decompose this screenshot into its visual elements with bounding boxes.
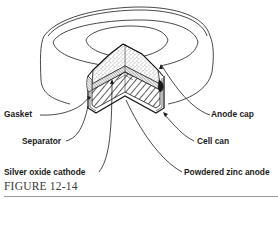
- anode-cap-boss: [86, 26, 168, 40]
- leader-zinc-anode: [126, 100, 182, 172]
- leader-cell-can: [164, 114, 194, 141]
- label-separator: Separator: [22, 137, 61, 145]
- cutaway-section: [87, 44, 164, 113]
- gasket-left: [87, 76, 92, 92]
- gasket-right: [158, 80, 163, 92]
- label-anode-cap: Anode cap: [211, 110, 254, 118]
- figure-caption: FIGURE 12-14: [4, 181, 78, 193]
- label-gasket: Gasket: [4, 110, 32, 118]
- caption-rule: [4, 196, 278, 197]
- right-wall: [168, 36, 213, 104]
- leader-gasket: [40, 98, 88, 115]
- leader-anode-cap: [162, 66, 210, 115]
- label-silver-oxide-cathode: Silver oxide cathode: [4, 168, 85, 176]
- label-powdered-zinc-anode: Powdered zinc anode: [184, 168, 270, 176]
- label-cell-can: Cell can: [197, 137, 229, 145]
